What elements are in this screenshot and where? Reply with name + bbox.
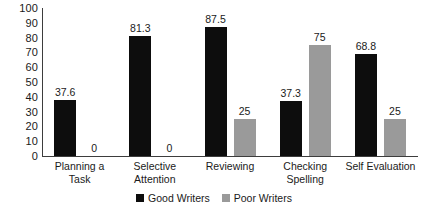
bar-group-bars: 68.825	[343, 8, 418, 156]
poor-writers-swatch	[222, 194, 230, 202]
bar-group-bars: 81.30	[117, 8, 192, 156]
bar-group: 87.525	[192, 8, 267, 156]
bar-value-label: 37.6	[55, 87, 75, 98]
bar-good-writers[interactable]	[129, 36, 151, 156]
y-axis-tick-label: 0	[0, 151, 38, 162]
y-axis-tick-labels: 1009080706050403020100	[0, 8, 38, 157]
y-axis-tick-label: 60	[0, 62, 38, 73]
bar-slot: 0	[83, 8, 105, 156]
bar-value-label: 0	[166, 143, 172, 154]
bar-slot: 25	[384, 8, 406, 156]
bar-group: 37.375	[268, 8, 343, 156]
bar-group-bars: 87.525	[192, 8, 267, 156]
bar-chart: 1009080706050403020100 37.6081.3087.5253…	[0, 0, 428, 214]
bar-value-label: 37.3	[280, 88, 300, 99]
bar-slot: 81.3	[129, 8, 151, 156]
y-axis-tick-label: 90	[0, 17, 38, 28]
bar-group: 68.825	[343, 8, 418, 156]
bar-slot: 68.8	[355, 8, 377, 156]
x-axis-category-label: Selective Attention	[117, 160, 192, 186]
bar-value-label: 25	[239, 106, 251, 117]
bar-group: 81.30	[117, 8, 192, 156]
legend-item-label: Poor Writers	[234, 192, 292, 204]
bar-poor-writers[interactable]	[384, 119, 406, 156]
y-axis-tick-label: 40	[0, 91, 38, 102]
legend-item-label: Good Writers	[148, 192, 210, 204]
y-axis-tick-label: 80	[0, 32, 38, 43]
x-axis-category-label: Self Evaluation	[343, 160, 418, 186]
bar-value-label: 0	[91, 143, 97, 154]
bar-value-label: 75	[314, 32, 326, 43]
x-axis-line	[42, 156, 418, 157]
y-axis-tick-label: 50	[0, 77, 38, 88]
bar-poor-writers[interactable]	[234, 119, 256, 156]
x-axis-category-labels: Planning a TaskSelective AttentionReview…	[42, 160, 418, 186]
y-axis-tick-label: 10	[0, 136, 38, 147]
bar-good-writers[interactable]	[205, 27, 227, 157]
bar-slot: 87.5	[205, 8, 227, 156]
x-axis-category-label: Reviewing	[192, 160, 267, 186]
bar-groups: 37.6081.3087.52537.37568.825	[42, 8, 418, 156]
bar-good-writers[interactable]	[355, 54, 377, 156]
x-axis-category-label: Planning a Task	[42, 160, 117, 186]
y-axis-tick-label: 20	[0, 121, 38, 132]
bar-group-bars: 37.375	[268, 8, 343, 156]
legend-item[interactable]: Good Writers	[136, 192, 210, 204]
legend-item[interactable]: Poor Writers	[222, 192, 292, 204]
bar-slot: 37.3	[280, 8, 302, 156]
good-writers-swatch	[136, 194, 144, 202]
bar-group-bars: 37.60	[42, 8, 117, 156]
bar-good-writers[interactable]	[280, 101, 302, 156]
bar-good-writers[interactable]	[54, 100, 76, 156]
y-axis-tick-label: 100	[0, 3, 38, 14]
bar-value-label: 68.8	[356, 41, 376, 52]
bar-group: 37.60	[42, 8, 117, 156]
bar-value-label: 25	[389, 106, 401, 117]
bar-slot: 0	[158, 8, 180, 156]
y-axis-tick-label: 70	[0, 47, 38, 58]
chart-legend: Good WritersPoor Writers	[0, 192, 428, 204]
y-axis-tick-label: 30	[0, 106, 38, 117]
bar-poor-writers[interactable]	[309, 45, 331, 156]
bar-slot: 25	[234, 8, 256, 156]
x-axis-category-label: Checking Spelling	[268, 160, 343, 186]
bar-value-label: 87.5	[205, 14, 225, 25]
bar-slot: 75	[309, 8, 331, 156]
bar-value-label: 81.3	[130, 23, 150, 34]
bar-slot: 37.6	[54, 8, 76, 156]
